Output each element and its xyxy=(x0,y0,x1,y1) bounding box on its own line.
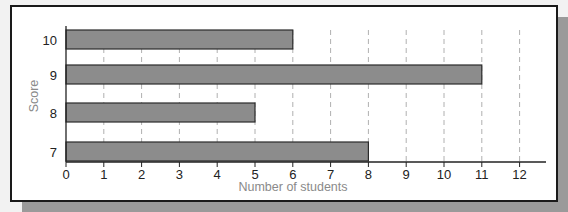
x-tick-label: 4 xyxy=(214,167,221,182)
x-tick-label: 11 xyxy=(475,167,489,182)
bar-score-9 xyxy=(66,65,482,84)
x-tick-label: 10 xyxy=(437,167,451,182)
y-axis-title: Score xyxy=(27,80,41,113)
bars xyxy=(66,30,482,161)
x-tick-label: 9 xyxy=(403,167,410,182)
y-category-label: 8 xyxy=(50,106,57,121)
x-tick-label: 12 xyxy=(512,167,526,182)
bar-chart: 0123456789101112 10987 Number of student… xyxy=(0,0,568,212)
bar-score-10 xyxy=(66,30,293,49)
x-tick-label: 1 xyxy=(100,167,107,182)
y-category-labels: 10987 xyxy=(43,33,57,160)
x-tick-label: 8 xyxy=(365,167,372,182)
x-tick-label: 0 xyxy=(62,167,69,182)
bar-score-7 xyxy=(66,142,368,161)
x-axis-title: Number of students xyxy=(238,180,347,194)
x-tick-label: 3 xyxy=(176,167,183,182)
bar-score-8 xyxy=(66,103,255,122)
y-category-label: 10 xyxy=(43,33,57,48)
x-tick-label: 2 xyxy=(138,167,145,182)
y-category-label: 7 xyxy=(50,145,57,160)
y-category-label: 9 xyxy=(50,68,57,83)
